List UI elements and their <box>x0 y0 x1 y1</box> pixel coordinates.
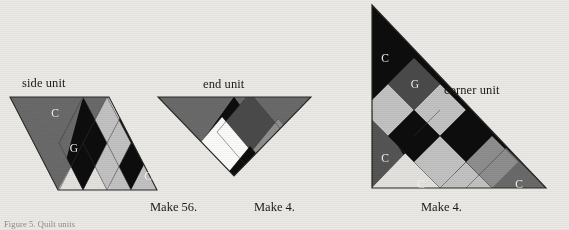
side-unit-make-label: Make 56. <box>150 201 197 214</box>
end-unit-patches <box>150 90 325 213</box>
end-unit-group <box>150 90 325 213</box>
diagram-page: C G C C G C C C side unit end unit corne… <box>0 0 569 230</box>
corner-unit-make-label: Make 4. <box>421 201 462 214</box>
quilt-units-svg: C G C C G C C C <box>0 0 569 230</box>
figure-caption: Figure 5. Quilt units <box>4 219 75 229</box>
end-unit-title: end unit <box>203 78 244 91</box>
patch-label-side-g: G <box>70 142 78 154</box>
patch-label-side-c2: C <box>144 170 152 182</box>
patch-label-corner-g: G <box>411 78 419 90</box>
side-unit-title: side unit <box>22 77 66 90</box>
corner-unit-group <box>362 0 555 214</box>
end-unit-make-label: Make 4. <box>254 201 295 214</box>
side-unit-patches <box>0 90 180 200</box>
patch-label-corner-c1: C <box>381 52 389 64</box>
side-unit-group <box>0 90 180 200</box>
corner-unit-patches <box>362 0 555 214</box>
patch-label-corner-c2: C <box>381 152 389 164</box>
patch-label-corner-c4: C <box>515 178 523 190</box>
corner-unit-title: corner unit <box>444 84 500 97</box>
patch-label-corner-c3: C <box>417 178 425 190</box>
patch-label-side-c1: C <box>51 107 59 119</box>
